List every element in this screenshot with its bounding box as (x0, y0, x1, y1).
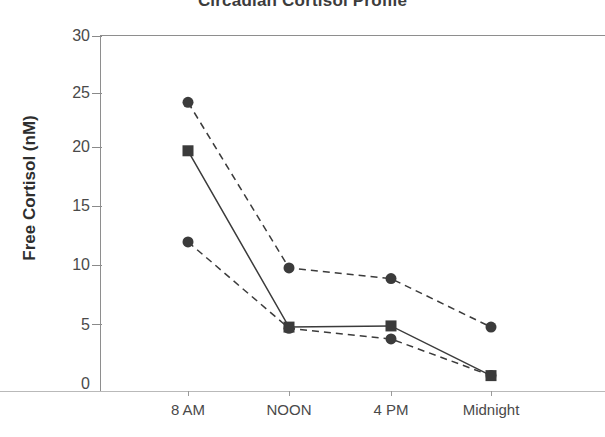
data-point-circle (183, 97, 194, 108)
data-point-circle (386, 333, 397, 344)
data-point-circle (183, 236, 194, 247)
data-point-square (183, 145, 194, 156)
data-point-circle (486, 322, 497, 333)
chart-container: Circadian Cortisol Profile Free Cortisol… (0, 0, 605, 437)
data-point-circle (486, 370, 497, 381)
data-point-circle (386, 273, 397, 284)
series-line (188, 242, 491, 376)
data-point-circle (284, 323, 295, 334)
data-point-square (386, 320, 397, 331)
data-point-circle (284, 262, 295, 273)
series-group (183, 145, 497, 381)
series-line (188, 102, 491, 327)
series-group (183, 97, 497, 333)
plot-area (0, 0, 605, 437)
series-line (188, 151, 491, 376)
series-group (183, 236, 497, 381)
